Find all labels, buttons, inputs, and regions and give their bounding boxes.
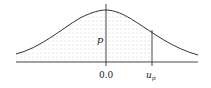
area-label: p [97,34,104,45]
center-tick-label: 0.0 [99,70,114,80]
shaded-area [16,10,160,62]
normal-distribution-diagram: p 0.0 up [0,0,211,88]
quantile-label: up [146,70,156,82]
quantile-label-sub: p [152,74,156,82]
